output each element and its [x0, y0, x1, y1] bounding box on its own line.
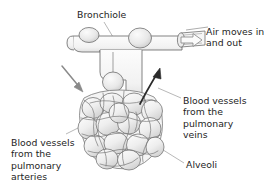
alveolar-bulge-1: [79, 28, 99, 43]
alveolar-sac: [118, 150, 141, 170]
bronchiole-left-cap: [67, 36, 74, 50]
label-air-movement: Air moves in and out: [206, 26, 264, 49]
label-bronchiole-line-1: Bronchiole: [77, 9, 126, 20]
label-pulmonary-veins-line-3: pulmonary: [183, 118, 247, 129]
label-pulmonary-veins-line-1: Blood vessels: [183, 95, 247, 106]
label-pulmonary-veins: Blood vessels from the pulmonary veins: [183, 95, 247, 141]
label-air-movement-line-1: Air moves in: [206, 26, 264, 37]
alveolar-bulge-3: [103, 72, 124, 92]
label-air-movement-line-2: and out: [206, 37, 264, 48]
alveolar-bulge-2: [129, 28, 152, 48]
label-pulmonary-veins-line-2: from the: [183, 106, 247, 117]
tube-top-line: [186, 27, 208, 30]
label-pulmonary-arteries-line-2: from the: [11, 148, 75, 159]
label-pulmonary-veins-line-4: veins: [183, 129, 247, 140]
leader-veins: [158, 88, 181, 98]
label-alveoli: Alveoli: [186, 159, 217, 170]
vein-arrow-head: [153, 68, 161, 79]
artery-arrow-head: [74, 82, 83, 92]
label-alveoli-line-1: Alveoli: [186, 159, 217, 170]
bronchiole-tube: [67, 28, 182, 99]
diagram-page: Bronchiole Air moves in and out Blood ve…: [0, 0, 276, 194]
pulmonary-artery-arrow: [62, 66, 83, 92]
label-pulmonary-arteries-line-1: Blood vessels: [11, 137, 75, 148]
label-pulmonary-arteries: Blood vessels from the pulmonary arterie…: [11, 137, 75, 183]
label-bronchiole: Bronchiole: [77, 9, 126, 20]
label-pulmonary-arteries-line-3: pulmonary: [11, 160, 75, 171]
alveoli-cluster: [78, 90, 164, 170]
label-pulmonary-arteries-line-4: arteries: [11, 171, 75, 182]
